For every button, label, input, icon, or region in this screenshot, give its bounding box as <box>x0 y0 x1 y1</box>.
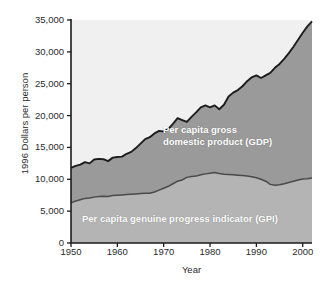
x-axis-tick-label: 2000 <box>283 247 323 257</box>
x-axis-tick-label: 1990 <box>236 247 276 257</box>
chart-figure: 1996 Dollars per person 05,00010,00015,0… <box>0 0 324 293</box>
x-axis-tick-label: 1950 <box>51 247 91 257</box>
x-axis-title: Year <box>71 264 312 275</box>
x-axis-tick-label: 1970 <box>144 247 184 257</box>
x-axis-tick-label: 1980 <box>190 247 230 257</box>
x-axis-tick-labels: 195019601970198019902000 <box>0 247 324 263</box>
series-label-gpi: Per capita genuine progress indicator (G… <box>82 213 278 225</box>
series-label-gdp: Per capita gross domestic product (GDP) <box>163 124 272 147</box>
x-axis-tick-label: 1960 <box>97 247 137 257</box>
